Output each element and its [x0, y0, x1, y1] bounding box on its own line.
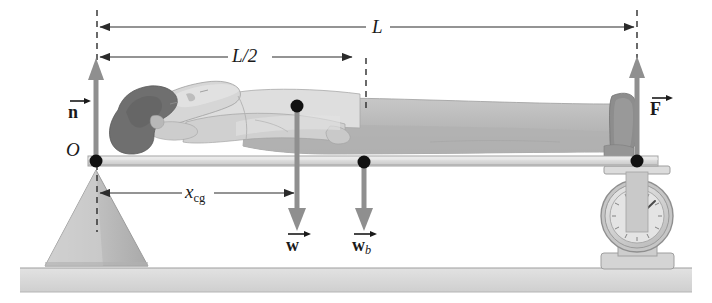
label-weight-person-w: w	[286, 228, 312, 254]
weighing-scale	[601, 166, 674, 269]
board	[88, 156, 658, 166]
vector-accent-arrow	[286, 228, 312, 237]
label-xcg-subscript: cg	[193, 191, 205, 205]
physics-diagram: L L/2 O xcg n F w wb	[0, 0, 712, 303]
label-F-symbol: F	[650, 99, 661, 119]
origin-dot	[90, 155, 103, 168]
label-w-symbol: w	[286, 235, 299, 255]
label-n-symbol: n	[68, 102, 78, 122]
person-figure	[109, 81, 637, 156]
vector-accent-arrow	[650, 92, 674, 101]
label-applied-force-F: F	[650, 92, 674, 118]
label-length-L: L	[372, 17, 383, 36]
fulcrum-support	[45, 170, 148, 267]
label-xcg: xcg	[185, 182, 205, 204]
label-normal-force-n: n	[68, 95, 92, 121]
label-wb-symbol: w	[352, 235, 365, 255]
label-weight-board-wb: wb	[352, 228, 378, 257]
label-wb-subscript: b	[365, 243, 371, 257]
label-origin-O: O	[66, 140, 80, 159]
diagram-canvas	[0, 0, 712, 303]
vector-accent-arrow	[68, 95, 92, 104]
label-length-half: L/2	[232, 46, 257, 65]
vector-weight-board	[355, 156, 373, 232]
ground	[20, 268, 692, 292]
vector-accent-arrow	[352, 228, 378, 237]
scale-contact-dot	[631, 155, 644, 168]
